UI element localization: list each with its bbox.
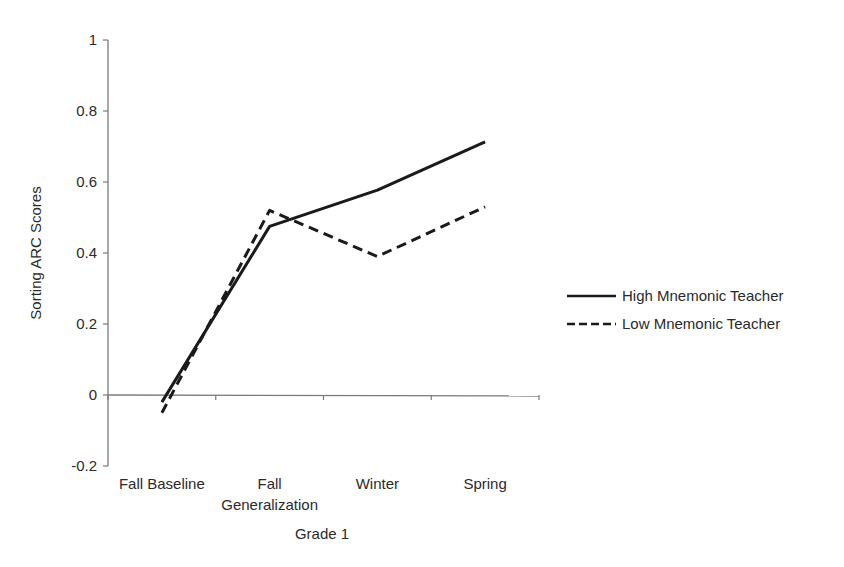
y-tick-label: 1 <box>89 31 97 48</box>
x-axis: Fall BaselineFallGeneralizationWinterSpr… <box>108 395 539 513</box>
y-tick-label: 0.4 <box>76 244 97 261</box>
x-tick-label: Fall <box>258 475 282 492</box>
y-axis-title: Sorting ARC Scores <box>27 186 44 319</box>
x-tick-label: Generalization <box>221 496 318 513</box>
legend-label: Low Mnemonic Teacher <box>622 315 780 332</box>
y-tick-label: 0.8 <box>76 102 97 119</box>
line-chart: -0.200.20.40.60.81 Fall BaselineFallGene… <box>0 0 844 567</box>
x-tick-label: Spring <box>463 475 506 492</box>
series-line-dashed <box>162 207 485 413</box>
y-axis: -0.200.20.40.60.81 <box>71 31 108 474</box>
x-tick-label: Winter <box>356 475 399 492</box>
y-tick-label: 0 <box>89 386 97 403</box>
x-tick-label: Fall Baseline <box>119 475 205 492</box>
series-line-solid <box>162 142 485 402</box>
series-lines <box>162 142 485 413</box>
y-tick-label: 0.6 <box>76 173 97 190</box>
y-tick-label: -0.2 <box>71 457 97 474</box>
x-axis-title: Grade 1 <box>295 525 349 542</box>
y-tick-label: 0.2 <box>76 315 97 332</box>
legend: High Mnemonic TeacherLow Mnemonic Teache… <box>567 287 783 332</box>
legend-label: High Mnemonic Teacher <box>622 287 783 304</box>
